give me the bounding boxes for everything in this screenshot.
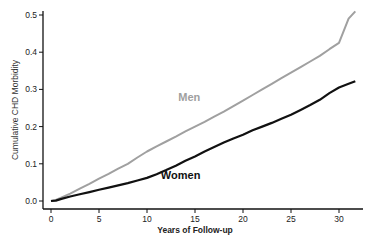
x-axis-label: Years of Follow-up: [157, 225, 233, 235]
x-tick-label: 10: [142, 214, 152, 224]
plot-area: MenWomen: [51, 11, 355, 201]
y-tick-label: 0.5: [25, 10, 37, 20]
y-tick-label: 0.1: [25, 159, 37, 169]
y-axis-label: Cumulative CHD Morbidity: [10, 59, 20, 160]
y-tick-label: 0.0: [25, 196, 37, 206]
x-tick-label: 30: [334, 214, 344, 224]
y-tick-label: 0.2: [25, 122, 37, 132]
series-label-men: Men: [178, 91, 200, 103]
x-tick-label: 15: [190, 214, 200, 224]
chart: MenWomen 0.00.10.20.30.40.5 051015202530…: [0, 0, 371, 241]
series-line-women: [51, 81, 355, 201]
x-tick-label: 20: [238, 214, 248, 224]
x-axis: 051015202530: [43, 209, 363, 224]
x-tick-label: 25: [286, 214, 296, 224]
y-axis: 0.00.10.20.30.40.5: [25, 10, 43, 209]
series-label-women: Women: [161, 169, 201, 181]
x-tick-label: 5: [97, 214, 102, 224]
y-tick-label: 0.3: [25, 84, 37, 94]
y-tick-label: 0.4: [25, 47, 37, 57]
x-tick-label: 0: [49, 214, 54, 224]
